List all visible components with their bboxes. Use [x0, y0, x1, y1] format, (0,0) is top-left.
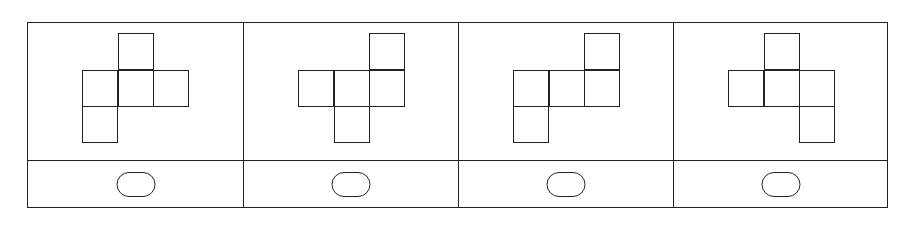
answer-cell: C [459, 160, 673, 209]
option-label: C [459, 161, 460, 162]
net-square [799, 106, 835, 143]
option-label: B [244, 161, 245, 162]
net-figure-cell [674, 23, 888, 160]
option-column-a: A [28, 23, 243, 207]
net-square [82, 106, 118, 143]
net-square [764, 70, 800, 107]
option-column-d: D [673, 23, 888, 207]
net-square [334, 70, 370, 107]
answer-oval-radio-d[interactable] [762, 172, 801, 197]
option-column-b: B [243, 23, 458, 207]
net-figure-cell [244, 23, 458, 160]
net-figure-cell [459, 23, 673, 160]
option-label: D [674, 161, 675, 162]
net-square [728, 70, 764, 107]
answer-oval-radio-a[interactable] [116, 172, 155, 197]
net-square [799, 70, 835, 107]
answer-oval-radio-c[interactable] [547, 172, 586, 197]
net-square [118, 70, 154, 107]
net-square [513, 70, 549, 107]
net-square [513, 106, 549, 143]
net-square [549, 70, 585, 107]
net-square [764, 33, 800, 70]
net-square [369, 33, 405, 70]
net-square [334, 106, 370, 143]
net-square [118, 33, 154, 70]
answer-cell: B [244, 160, 458, 209]
options-table: A B C D [27, 22, 888, 208]
net-square [153, 70, 189, 107]
net-square [298, 70, 334, 107]
net-square [584, 33, 620, 70]
net-square [369, 70, 405, 107]
option-column-c: C [458, 23, 673, 207]
answer-cell: A [28, 160, 243, 209]
net-figure-cell [28, 23, 243, 160]
answer-oval-radio-b[interactable] [332, 172, 371, 197]
net-square [82, 70, 118, 107]
option-label: A [28, 161, 29, 162]
answer-cell: D [674, 160, 888, 209]
net-square [584, 70, 620, 107]
